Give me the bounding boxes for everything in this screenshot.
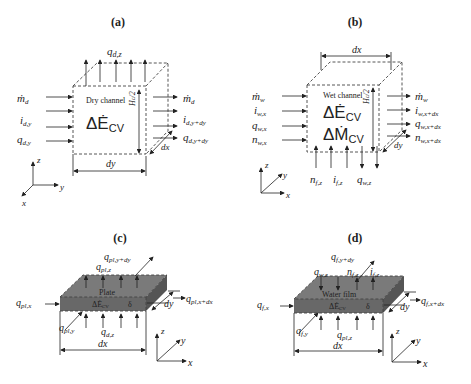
q-pl-y-dy-label: qpl,y+dy (104, 251, 132, 264)
channel-name: Dry channel (86, 96, 126, 105)
outlet-label-3: nw,x+dx (415, 131, 442, 145)
q-pl-x-dx-label: qpl,x+dx (186, 293, 214, 306)
svg-text:y: y (415, 335, 421, 346)
outlet-label-2: qw,x+dx (415, 117, 442, 131)
dry-channel-box (73, 63, 168, 154)
svg-text:z: z (36, 155, 41, 165)
top-flux-arrows (86, 60, 145, 86)
outlet-label-0: ṁw (415, 90, 428, 104)
depth-label: dy (164, 298, 174, 309)
inlet-label-1: iw,x (254, 104, 267, 118)
axis-triad: z y x (21, 155, 64, 208)
bottom-flux-arrows (86, 314, 137, 328)
panel-b-label: (b) (348, 15, 363, 29)
body-name: Water film (322, 290, 357, 299)
body-name: Plate (99, 288, 115, 297)
bottom-label: dx (333, 340, 343, 351)
svg-text:x: x (21, 198, 26, 208)
outlet-label-2: qd,y+dy (183, 131, 209, 145)
outlet-label-1: iw,x+dx (415, 104, 439, 118)
inlet-label-0: ṁd (17, 92, 29, 106)
thickness-label: δ (366, 302, 370, 311)
inlet-label-1: id,y (20, 114, 32, 128)
y-out-arrow (135, 257, 153, 276)
height-label: Hc/2 (128, 91, 137, 107)
channel-name: Wet channel (323, 91, 363, 100)
panel-a-label: (a) (111, 15, 125, 29)
q-w-z-label: qw,z (314, 266, 328, 279)
inlet-arrows (46, 97, 72, 141)
depth-label: dx (161, 142, 170, 152)
mass-label: ΔṀCV (323, 125, 364, 145)
panel-c: (c) Plate ΔĖCV δ qpl,z qpl,y+dy qpl,x qp… (16, 231, 214, 368)
thickness-label: δ (128, 300, 132, 309)
q-f-x-label: qf,x (257, 299, 270, 312)
svg-text:z: z (264, 160, 269, 170)
svg-text:y: y (282, 170, 287, 180)
q-f-y-dy-label: qf,y+dy (331, 251, 355, 264)
bottom-label: dy (106, 158, 116, 169)
bottom-flux-label-0: nf,z (310, 173, 322, 187)
inlet-arrows (282, 96, 306, 140)
axis-triad: z x y (157, 326, 193, 368)
depth-label: dy (400, 301, 410, 312)
panel-d-label: (d) (348, 231, 363, 245)
bottom-flux-label-2: qw,z (357, 173, 371, 187)
q-f-y-label: qf,y (296, 325, 309, 338)
inlet-label-0: ṁw (252, 90, 265, 104)
svg-text:z: z (395, 326, 400, 336)
energy-label: ΔĖCV (86, 114, 125, 134)
outlet-arrows (387, 96, 410, 136)
top-label: dx (352, 44, 362, 55)
svg-text:x: x (285, 190, 290, 200)
inlet-label-2: qw,x (252, 119, 267, 133)
q-pl-y-label: qpl,y (59, 322, 75, 335)
axis-triad: z x y (392, 326, 428, 369)
inlet-label-3: nw,x (252, 133, 267, 147)
svg-text:y: y (180, 335, 186, 346)
q-d-z-label: qd,z (107, 45, 123, 59)
svg-text:x: x (422, 358, 428, 369)
outlet-arrows (153, 97, 177, 138)
svg-text:x: x (187, 357, 193, 368)
svg-text:z: z (160, 326, 165, 336)
q-f-x-dx-label: qf,x+dx (421, 295, 445, 308)
q-pl-x-label: qpl,x (16, 297, 32, 310)
bottom-flux-arrows (321, 316, 373, 330)
height-label: Hc/2 (362, 89, 371, 105)
outlet-label-1: id,y+dy (183, 113, 207, 127)
outlet-label-0: ṁd (183, 92, 195, 106)
svg-text:y: y (59, 182, 64, 192)
depth-label: dy (394, 140, 403, 150)
inlet-label-2: qd,y (17, 133, 32, 147)
control-volume-figure: (a) qd,z Dry channel ΔĖCV Hc/2 ṁd id, (0, 0, 471, 384)
panel-d: (d) Water film ΔĖCV δ qw,z nf,z if,z qf,… (257, 231, 445, 369)
energy-label: ΔĖCV (323, 103, 362, 123)
bottom-flux-arrows (316, 146, 377, 168)
bottom-flux-label-1: if,z (333, 173, 343, 187)
panel-b: (b) dx Wet channel ΔĖCV ΔṀCV Hc/2 ṁw iw,… (252, 15, 442, 200)
panel-c-label: (c) (113, 231, 126, 245)
panel-a: (a) qd,z Dry channel ΔĖCV Hc/2 ṁd id, (17, 15, 209, 208)
bottom-label: dx (98, 338, 108, 349)
axis-triad: z x y (261, 160, 290, 200)
